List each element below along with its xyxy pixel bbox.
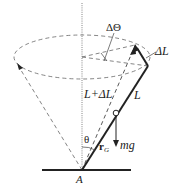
label-mg: mg [120, 138, 135, 152]
mg-arrowhead [113, 140, 119, 147]
label-L: L [133, 88, 141, 102]
radius-to-L-plus-deltaL-tip [82, 45, 135, 57]
theta-arc [82, 147, 95, 150]
label-L-plus-delta-L: L+ΔL [83, 87, 113, 101]
precession-diagram: ΔΘ ΔL L+ΔL L θ rG mg A [0, 0, 181, 183]
deltaL-vector [137, 48, 148, 66]
center-of-mass [113, 110, 119, 116]
label-r-G: rG [99, 140, 109, 154]
label-delta-theta: ΔΘ [106, 21, 121, 33]
cone-left-arrowhead [17, 63, 23, 70]
label-A: A [75, 173, 83, 183]
radius-to-L-tip [82, 57, 148, 66]
label-delta-L: ΔL [154, 44, 169, 58]
L-vector [82, 66, 148, 170]
label-theta: θ [84, 133, 89, 145]
cone-left-edge [19, 67, 82, 170]
